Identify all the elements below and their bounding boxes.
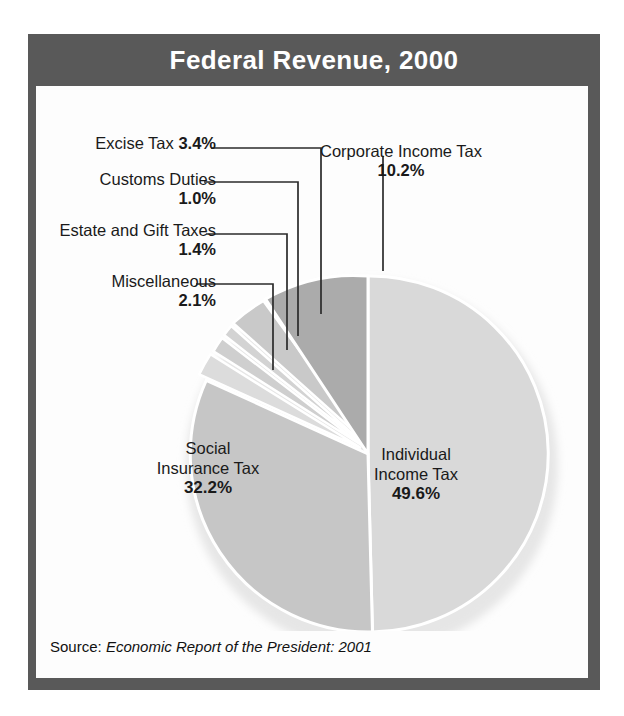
callout-estate-and-gift-taxes: Estate and Gift Taxes 1.4% [36,221,216,259]
callout-customs-duties-name: Customs Duties [36,170,216,189]
callout-corporate-income-tax-value: 10.2% [301,161,501,180]
slice-label-individual-income-tax: Individual Income Tax 49.6% [336,444,496,505]
chart-title-bar: Federal Revenue, 2000 [28,34,600,86]
slice-label-individual-line2: Income Tax [336,464,496,484]
callout-estate-and-gift-taxes-name: Estate and Gift Taxes [36,221,216,240]
chart-panel: Excise Tax 3.4% Customs Duties 1.0% Esta… [36,86,588,678]
callout-miscellaneous: Miscellaneous 2.1% [36,272,216,310]
slice-label-individual-line1: Individual [336,444,496,464]
callout-excise-tax-name: Excise Tax [95,134,174,152]
slice-label-social-line2: Insurance Tax [128,458,288,478]
callout-miscellaneous-name: Miscellaneous [36,272,216,291]
slice-label-social-insurance-tax: Social Insurance Tax 32.2% [128,438,288,499]
callout-miscellaneous-value: 2.1% [36,291,216,310]
source-citation: Economic Report of the President: 2001 [106,638,372,655]
slice-label-social-value: 32.2% [128,478,288,499]
callout-excise-tax: Excise Tax 3.4% [36,134,216,153]
page-title: Federal Revenue, 2000 [170,45,459,76]
figure-frame: Federal Revenue, 2000 [28,34,600,690]
pie-chart: Excise Tax 3.4% Customs Duties 1.0% Esta… [36,86,588,631]
callout-estate-and-gift-taxes-value: 1.4% [36,240,216,259]
slice-label-social-line1: Social [128,438,288,458]
callout-corporate-income-tax: Corporate Income Tax 10.2% [301,142,501,180]
callout-customs-duties-value: 1.0% [36,189,216,208]
callout-customs-duties: Customs Duties 1.0% [36,170,216,208]
source-prefix: Source: [50,638,102,655]
source-note: Source: Economic Report of the President… [50,638,372,655]
callout-excise-tax-value: 3.4% [178,134,216,152]
slice-label-individual-value: 49.6% [336,484,496,505]
callout-corporate-income-tax-name: Corporate Income Tax [301,142,501,161]
